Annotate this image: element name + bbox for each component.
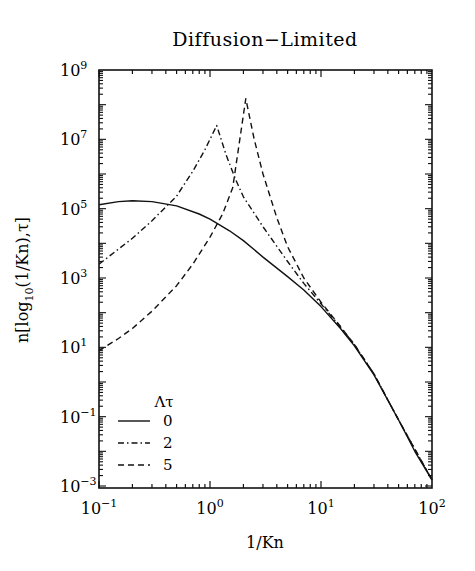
series-group: [99, 99, 432, 480]
y-tick-label: 103: [60, 267, 87, 288]
series-line-dashed: [99, 99, 432, 480]
chart-title: Diffusion−Limited: [172, 28, 357, 50]
y-tick-label: 109: [60, 59, 87, 80]
x-tick-label: 102: [418, 497, 445, 518]
legend-label-0: 0: [163, 412, 173, 430]
y-tick-label: 101: [60, 336, 87, 357]
legend-title: Λτ: [153, 393, 173, 411]
tick-labels: 10−110010110210910710510310110−110−3: [60, 59, 446, 518]
series-line-dash-dot: [99, 126, 432, 480]
y-tick-label: 105: [60, 198, 87, 219]
y-axis-label: n[log10(1/Kn),τ]: [13, 217, 36, 343]
axis-ticks: [99, 70, 432, 488]
x-tick-label: 10−1: [81, 497, 118, 518]
x-tick-label: 100: [196, 497, 223, 518]
chart: Diffusion−Limited 10−1100101102109107105…: [0, 0, 475, 571]
legend-label-2: 2: [163, 434, 173, 452]
x-axis-label: 1/Kn: [246, 533, 284, 552]
y-tick-label: 10−3: [60, 475, 97, 496]
legend: Λτ 0 2 5: [118, 393, 174, 474]
plot-frame: [99, 70, 432, 488]
series-line-solid: [99, 201, 432, 480]
y-tick-label: 10−1: [60, 406, 97, 427]
legend-label-5: 5: [163, 456, 173, 474]
x-tick-label: 101: [307, 497, 334, 518]
y-tick-label: 107: [60, 128, 87, 149]
